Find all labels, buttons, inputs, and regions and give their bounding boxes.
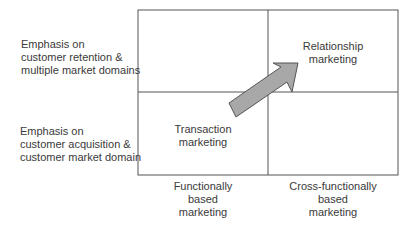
row-label-line: customer acquisition & xyxy=(20,138,141,151)
row-label-line: customer retention & xyxy=(21,51,140,64)
row-label-line: Emphasis on xyxy=(20,125,141,138)
column-label-functional: Functionally based marketing xyxy=(138,180,268,219)
cell-label-line: marketing xyxy=(268,53,398,66)
column-label-line: marketing xyxy=(268,206,398,219)
row-label-line: customer market domain xyxy=(20,151,141,164)
row-label-line: multiple market domains xyxy=(21,64,140,77)
row-label-line: Emphasis on xyxy=(21,38,140,51)
arrow-icon xyxy=(229,63,298,117)
cell-label-line: Transaction xyxy=(138,123,268,136)
column-label-line: marketing xyxy=(138,206,268,219)
row-label-top: Emphasis on customer retention & multipl… xyxy=(21,38,140,77)
column-label-line: based xyxy=(138,193,268,206)
cell-relationship-marketing: Relationship marketing xyxy=(268,40,398,66)
column-label-line: Cross-functionally xyxy=(268,180,398,193)
row-label-bottom: Emphasis on customer acquisition & custo… xyxy=(20,125,141,164)
cell-label-line: marketing xyxy=(138,136,268,149)
column-label-line: Functionally xyxy=(138,180,268,193)
cell-transaction-marketing: Transaction marketing xyxy=(138,123,268,149)
column-label-line: based xyxy=(268,193,398,206)
column-label-cross-functional: Cross-functionally based marketing xyxy=(268,180,398,219)
cell-label-line: Relationship xyxy=(268,40,398,53)
